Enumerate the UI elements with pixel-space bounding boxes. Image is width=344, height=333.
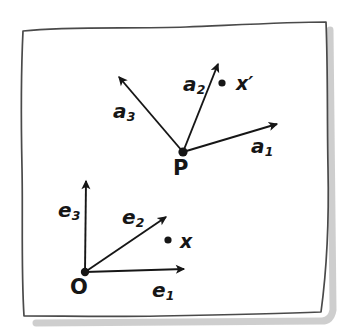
point-dot-x-prime [218,79,225,86]
label-a1-symbol: a [251,134,265,158]
label-point-x-prime: x′ [236,74,253,93]
label-e2-subscript: 2 [136,215,145,230]
label-a2-symbol: a [183,72,197,96]
label-e3-subscript: 3 [72,208,81,223]
label-e2: e2 [122,207,144,227]
vector-e3 [85,181,86,272]
label-a2: a2 [183,74,205,94]
label-e1-subscript: 1 [166,288,175,303]
label-a3-subscript: 3 [127,109,136,124]
label-a1: a1 [251,136,273,156]
label-a3-symbol: a [113,99,127,123]
label-point-x: x [180,232,192,251]
label-e3-symbol: e [58,198,72,222]
label-a1-subscript: 1 [265,144,274,159]
diagram-canvas: a1 a2 a3 e1 e2 e3 P O x x′ [0,0,344,333]
point-dot-x [164,236,171,243]
label-origin-P: P [173,158,188,179]
label-origin-O: O [70,277,88,298]
label-e2-symbol: e [122,205,136,229]
label-e1-symbol: e [152,278,166,302]
label-e3: e3 [58,200,80,220]
label-a3: a3 [113,101,135,121]
label-a2-subscript: 2 [197,82,206,97]
label-e1: e1 [152,280,174,300]
